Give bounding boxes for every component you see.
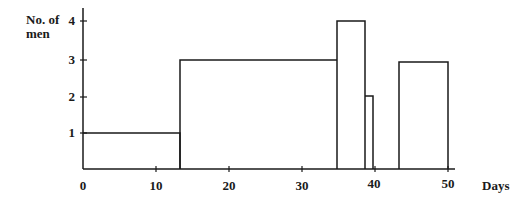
histogram-bars: [83, 21, 448, 169]
x-tick-label-20: 20: [214, 178, 244, 194]
y-tick-label-3: 3: [61, 52, 75, 68]
resource-histogram-chart: [0, 0, 532, 201]
x-tick-label-0: 0: [68, 178, 98, 194]
y-axis-label-line1: No. of: [26, 13, 59, 27]
x-tick-label-30: 30: [287, 178, 317, 194]
y-tick-label-2: 2: [61, 89, 75, 105]
bar-0-13: [83, 133, 180, 169]
x-tick-label-40: 40: [359, 176, 389, 192]
y-axis-label-line2: men: [26, 27, 50, 41]
bar-43-50: [399, 62, 448, 169]
bar-35-38: [337, 21, 365, 169]
bar-13-35: [180, 60, 337, 169]
y-tick-label-4: 4: [61, 13, 75, 29]
x-axis-label: Days: [482, 179, 509, 193]
x-tick-label-10: 10: [141, 178, 171, 194]
x-tick-label-50: 50: [433, 176, 463, 192]
y-tick-label-1: 1: [61, 125, 75, 141]
bar-38-40: [365, 96, 373, 169]
